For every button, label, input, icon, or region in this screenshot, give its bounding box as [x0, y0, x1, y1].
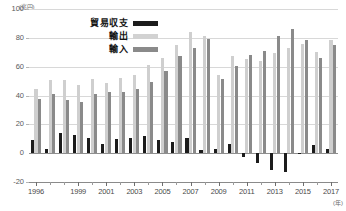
legend-item-2: 輸入: [33, 43, 158, 56]
x-tick-mark-2002: [120, 182, 121, 185]
x-tick-mark-2007: [191, 182, 192, 186]
x-tick-label-2003: 2003: [126, 187, 142, 196]
x-tick-mark-2016: [317, 182, 318, 185]
bar-imports: [207, 39, 210, 153]
x-tick-mark-2000: [92, 182, 93, 185]
x-tick-label-2005: 2005: [154, 187, 170, 196]
bar-group: [226, 9, 240, 182]
x-tick-mark-2008: [205, 182, 206, 185]
x-tick-mark-2006: [176, 182, 177, 185]
legend-label: 貿易収支: [90, 19, 128, 28]
x-tick-mark-2001: [106, 182, 107, 186]
bar-imports: [80, 102, 83, 153]
x-tick-mark-1997: [50, 182, 51, 185]
bar-imports: [94, 94, 97, 153]
bar-imports: [221, 79, 224, 153]
x-tick-mark-2004: [148, 182, 149, 185]
bar-balance: [270, 153, 273, 170]
x-tick-label-2015: 2015: [295, 187, 311, 196]
y-tick-label-60: 60: [0, 63, 24, 71]
x-tick-mark-2003: [134, 182, 135, 186]
bar-imports: [108, 92, 111, 153]
x-tick-mark-1999: [78, 182, 79, 186]
bar-group: [254, 9, 268, 182]
bar-imports: [52, 94, 55, 153]
bar-imports: [122, 92, 125, 153]
x-tick-mark-2009: [219, 182, 220, 186]
x-tick-mark-2015: [303, 182, 304, 186]
chart-legend: 貿易収支輸出輸入: [33, 17, 158, 56]
legend-item-1: 輸出: [33, 30, 158, 43]
y-tick-label-20: 20: [0, 120, 24, 128]
y-tick-label--20: -20: [0, 178, 24, 186]
trade-balance-chart: (兆円) 100806040200-20 1996199920012003200…: [0, 0, 346, 211]
x-tick-label-2007: 2007: [183, 187, 199, 196]
x-tick-label-1996: 1996: [28, 187, 44, 196]
bar-balance: [256, 153, 259, 163]
x-tick-label-2001: 2001: [98, 187, 114, 196]
bar-imports: [66, 100, 69, 153]
legend-swatch-icon: [133, 47, 158, 52]
x-tick-mark-2011: [247, 182, 248, 186]
x-tick-label-2017: 2017: [323, 187, 339, 196]
bar-balance: [242, 153, 245, 157]
x-tick-label-2009: 2009: [211, 187, 227, 196]
bar-group: [310, 9, 324, 182]
x-tick-label-1999: 1999: [70, 187, 86, 196]
x-tick-label-2011: 2011: [239, 187, 254, 196]
bar-imports: [263, 51, 266, 153]
bar-imports: [333, 45, 336, 154]
bar-group: [212, 9, 226, 182]
bar-group: [184, 9, 198, 182]
bar-group: [198, 9, 212, 182]
y-tick-label-40: 40: [0, 92, 24, 100]
x-tick-mark-2012: [261, 182, 262, 185]
bar-imports: [235, 66, 238, 154]
bar-balance: [298, 153, 301, 154]
bar-imports: [305, 40, 308, 153]
bar-imports: [38, 99, 41, 154]
bar-imports: [164, 71, 167, 153]
x-axis-line: [29, 182, 338, 183]
bar-group: [282, 9, 296, 182]
x-tick-mark-2014: [289, 182, 290, 185]
y-tick-label-80: 80: [0, 34, 24, 42]
bar-balance: [284, 153, 287, 171]
bar-group: [240, 9, 254, 182]
legend-label: 輸入: [109, 45, 128, 54]
legend-swatch-icon: [133, 21, 158, 26]
y-tick-label-0: 0: [0, 149, 24, 157]
bar-imports: [193, 48, 196, 153]
x-tick-mark-2017: [331, 182, 332, 186]
legend-swatch-icon: [133, 34, 158, 39]
y-tick-label-100: 100: [0, 5, 24, 13]
legend-item-0: 貿易収支: [33, 17, 158, 30]
bar-group: [324, 9, 338, 182]
x-tick-mark-1996: [36, 182, 37, 186]
bar-imports: [150, 82, 153, 153]
bar-imports: [136, 89, 139, 153]
x-tick-label-2013: 2013: [267, 187, 283, 196]
bar-imports: [178, 56, 181, 153]
bar-imports: [249, 55, 252, 153]
bar-group: [296, 9, 310, 182]
bar-imports: [277, 36, 280, 153]
x-axis-unit: (年): [333, 198, 343, 207]
x-tick-mark-2010: [233, 182, 234, 185]
bar-group: [268, 9, 282, 182]
x-tick-mark-1998: [64, 182, 65, 185]
bar-group: [169, 9, 183, 182]
x-tick-mark-2005: [162, 182, 163, 186]
x-tick-mark-2013: [275, 182, 276, 186]
legend-label: 輸出: [109, 32, 128, 41]
bar-imports: [291, 29, 294, 153]
bar-imports: [319, 58, 322, 153]
